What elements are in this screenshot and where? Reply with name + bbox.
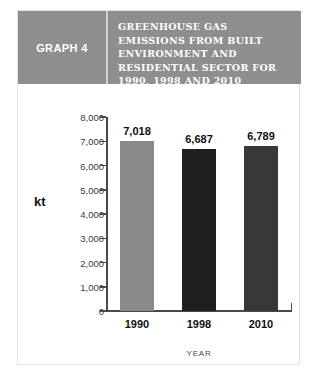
y-tick-mark [100,213,106,215]
y-tick-mark [100,286,106,288]
y-tick-mark [100,262,106,264]
y-tick-mark [100,116,106,118]
y-tick-label: 8,000 [58,112,104,123]
chart-card: GRAPH 4 GREENHOUSE GAS EMISSIONS FROM BU… [17,10,300,365]
y-tick-mark [100,310,106,312]
y-tick-label: 3,000 [58,233,104,244]
y-tick-mark [100,141,106,143]
y-tick-label: 5,000 [58,184,104,195]
x-axis-title: YEAR [106,349,292,358]
y-axis-label: kt [34,194,46,209]
x-category-label: 1998 [168,318,230,330]
y-tick-label: 0 [58,306,104,317]
plot-area: kt 8,0007,0006,0005,0004,0003,0002,0001,… [18,84,301,365]
chart-header: GRAPH 4 GREENHOUSE GAS EMISSIONS FROM BU… [18,11,301,84]
graph-number-label: GRAPH 4 [18,11,106,84]
y-tick-label: 2,000 [58,257,104,268]
y-tick-label: 7,000 [58,136,104,147]
y-tick-mark [100,238,106,240]
x-category-label: 1990 [106,318,168,330]
y-axis-tick-labels: 8,0007,0006,0005,0004,0003,0002,0001,000… [56,84,104,365]
y-tick-mark [100,189,106,191]
x-category-label: 2010 [230,318,292,330]
y-tick-mark [100,165,106,167]
x-axis-category-labels: 199019982010 [106,84,292,365]
y-tick-label: 1,000 [58,281,104,292]
y-tick-label: 6,000 [58,160,104,171]
chart-title: GREENHOUSE GAS EMISSIONS FROM BUILT ENVI… [108,11,301,84]
y-tick-label: 4,000 [58,209,104,220]
